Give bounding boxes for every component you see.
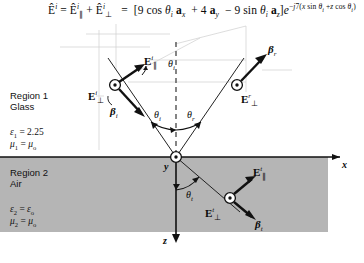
- theta-t-label: θt: [186, 190, 193, 203]
- origin-y-out-of-page-symbol: [171, 152, 182, 163]
- region2-permeability: μ2 = μo: [10, 215, 36, 231]
- reflected-beta-label: βr: [268, 44, 276, 58]
- incident-field-equation: Êi = Êi∥ + Êi⊥ = [9 cos θi ax + 4 ay − 9…: [48, 2, 358, 19]
- incident-E-parallel-arrow: [119, 64, 145, 82]
- region1-permeability: μ1 = μo: [10, 138, 36, 154]
- incident-theta-i-polar-label: θi: [168, 59, 175, 72]
- incident-beta-label: βi: [110, 106, 118, 120]
- reflected-vector-cluster: [232, 54, 267, 90]
- z-axis-label: z: [163, 236, 167, 246]
- reflected-beta-arrow: [241, 54, 267, 81]
- x-axis-label: x: [342, 160, 347, 170]
- transmitted-beta-label: βt: [255, 219, 263, 233]
- transmitted-E-parallel-label: Et∥: [253, 166, 266, 180]
- reflected-E-perp-label: Er⊥: [241, 93, 258, 107]
- theta-i-label: θi: [154, 110, 161, 123]
- reflected-ray: [176, 58, 244, 157]
- incident-E-parallel-label: Ei∥: [144, 55, 157, 69]
- theta-r-label: θr: [187, 110, 195, 123]
- region2-name: Region 2: [10, 167, 48, 179]
- region2-material: Air: [10, 178, 22, 190]
- incident-ray: [108, 58, 176, 157]
- region1-material: Glass: [10, 101, 34, 113]
- transmitted-E-perp-label: Et⊥: [205, 207, 221, 221]
- incident-beta-arc: [108, 96, 112, 105]
- ray-diagram-figure: [0, 0, 364, 263]
- region1-name: Region 1: [10, 90, 48, 102]
- y-axis-label: y: [164, 162, 168, 172]
- incident-E-perp-label: Ei⊥: [88, 90, 104, 104]
